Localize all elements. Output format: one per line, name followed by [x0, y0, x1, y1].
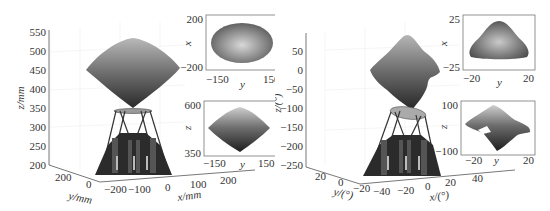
svg-text:450: 450 — [30, 64, 47, 76]
svg-text:350: 350 — [30, 102, 47, 114]
svg-text:400: 400 — [30, 83, 47, 95]
svg-text:−200: −200 — [104, 183, 127, 195]
svg-text:600: 600 — [185, 99, 202, 111]
svg-text:−200: −200 — [280, 140, 303, 152]
svg-text:−20: −20 — [465, 154, 483, 166]
x-axis-label: x/(°) — [428, 188, 451, 204]
orientation-workspace-plot: 50 0 −50 −100 −150 −200 −250 z/(°) 20 0 … — [275, 0, 550, 211]
svg-text:150: 150 — [258, 157, 275, 169]
z-ticks: 50 0 −50 −100 −150 −200 −250 — [280, 45, 303, 171]
svg-text:40: 40 — [472, 172, 484, 184]
svg-text:−100: −100 — [435, 145, 458, 157]
svg-text:20: 20 — [315, 170, 327, 182]
position-workspace-plot: 550 500 450 400 350 300 250 200 z/mm 200… — [0, 0, 275, 211]
svg-text:200: 200 — [220, 174, 237, 186]
svg-text:0: 0 — [165, 181, 171, 193]
svg-text:50: 50 — [292, 45, 304, 57]
svg-text:−150: −150 — [280, 121, 303, 133]
svg-text:y: y — [496, 76, 502, 88]
svg-text:−20: −20 — [397, 184, 415, 196]
x-axis-label: x/mm — [176, 188, 202, 203]
svg-text:25: 25 — [449, 13, 461, 25]
svg-text:y: y — [493, 154, 499, 166]
svg-text:y: y — [239, 158, 245, 170]
svg-text:100: 100 — [442, 99, 459, 111]
svg-text:z: z — [181, 125, 193, 131]
svg-text:−100: −100 — [128, 183, 151, 195]
svg-text:−20: −20 — [463, 72, 481, 84]
svg-text:−200: −200 — [180, 61, 203, 73]
svg-text:−150: −150 — [203, 157, 226, 169]
svg-text:−40: −40 — [373, 185, 391, 197]
svg-text:−150: −150 — [206, 73, 229, 85]
svg-text:20: 20 — [445, 176, 457, 188]
orientation-workspace-chart: 50 0 −50 −100 −150 −200 −250 z/(°) 20 0 … — [275, 0, 550, 211]
svg-text:x: x — [437, 41, 449, 47]
workspace-surface — [86, 38, 180, 108]
position-workspace-chart: 550 500 450 400 350 300 250 200 z/mm 200… — [0, 0, 275, 211]
y-axis-label: y/(°) — [331, 185, 354, 202]
svg-text:−250: −250 — [280, 159, 303, 171]
svg-text:−25: −25 — [443, 61, 461, 73]
svg-text:150: 150 — [263, 73, 275, 85]
z-axis-label: z/mm — [14, 86, 26, 110]
svg-text:200: 200 — [30, 159, 47, 171]
svg-text:250: 250 — [30, 140, 47, 152]
svg-text:300: 300 — [30, 121, 47, 133]
svg-text:−100: −100 — [280, 102, 303, 114]
svg-text:x: x — [181, 41, 193, 47]
svg-text:−20: −20 — [353, 182, 371, 194]
svg-text:20: 20 — [523, 154, 535, 166]
z-axis-label: z/(°) — [275, 93, 284, 113]
svg-text:350: 350 — [185, 147, 202, 159]
inset-side-view: 100 −100 −20 20 y z — [435, 99, 535, 166]
inset-top-view: 200 −200 −150 150 y x — [180, 13, 275, 90]
svg-text:y: y — [239, 78, 245, 90]
svg-text:z: z — [437, 124, 449, 130]
svg-text:20: 20 — [523, 72, 535, 84]
svg-text:200: 200 — [187, 13, 204, 25]
inset-top-view: 25 −25 −20 20 y x — [437, 13, 535, 88]
svg-text:0: 0 — [86, 178, 92, 190]
y-axis-label: y/mm — [67, 189, 94, 206]
z-ticks: 550 500 450 400 350 300 250 200 — [30, 26, 47, 171]
svg-text:550: 550 — [30, 26, 47, 38]
svg-text:−50: −50 — [286, 83, 304, 95]
inset-side-view: 600 350 −150 150 y z — [181, 99, 275, 170]
svg-text:200: 200 — [55, 171, 72, 183]
svg-text:500: 500 — [30, 45, 47, 57]
svg-text:0: 0 — [298, 64, 304, 76]
